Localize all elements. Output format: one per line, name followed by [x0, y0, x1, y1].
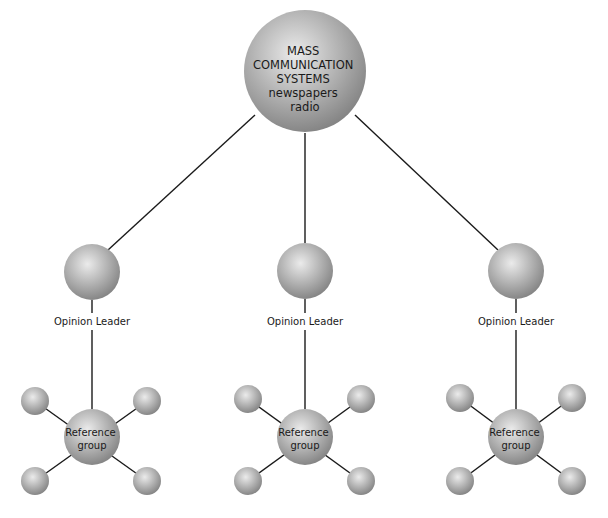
sphere-icon: [488, 243, 544, 299]
mass-communication-node: MASS COMMUNICATION SYSTEMS newspapers ra…: [244, 10, 366, 132]
connector-top-left: [108, 115, 255, 250]
connector-top-right: [355, 115, 498, 250]
opinion-leader-middle: Opinion Leader: [267, 243, 344, 327]
svg-text:Opinion Leader: Opinion Leader: [267, 316, 344, 327]
sphere-icon: [277, 243, 333, 299]
reference-group-middle: Reference group: [277, 409, 333, 465]
svg-text:Opinion Leader: Opinion Leader: [478, 316, 555, 327]
reference-group-left: Reference group: [64, 409, 120, 465]
reference-group-right: Reference group: [488, 409, 544, 465]
diagram-canvas: MASS COMMUNICATION SYSTEMS newspapers ra…: [0, 0, 608, 518]
svg-text:Opinion Leader: Opinion Leader: [54, 316, 131, 327]
opinion-leader-right: Opinion Leader: [478, 243, 555, 327]
sphere-icon: [64, 244, 120, 300]
opinion-leader-left: Opinion Leader: [54, 244, 131, 327]
